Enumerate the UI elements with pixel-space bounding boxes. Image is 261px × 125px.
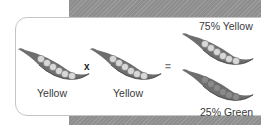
pea-pod-yellow-offspring (181, 32, 255, 68)
pea-pod-yellow-parent-1 (17, 47, 91, 83)
pea-pod-green-offspring (181, 68, 255, 104)
parent-1-label: Yellow (37, 87, 67, 99)
offspring-green-label: 25% Green (200, 106, 253, 118)
equals-symbol: = (165, 61, 171, 72)
offspring-yellow-label: 75% Yellow (199, 20, 253, 32)
pea-pod-yellow-parent-2 (89, 47, 163, 83)
hatched-background-top (69, 0, 261, 18)
parent-2-label: Yellow (113, 87, 143, 99)
